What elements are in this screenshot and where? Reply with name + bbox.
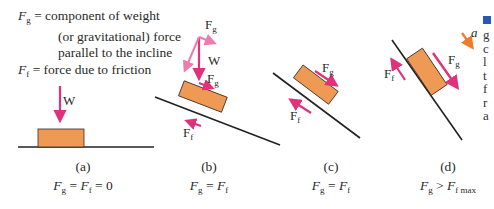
eq-op: = 0 (92, 178, 113, 193)
eq-symbol: F (190, 178, 198, 193)
eq-sub: f (225, 185, 228, 195)
eq-symbol: F (312, 178, 320, 193)
right-edge-text-fragment: g c l t f r a (480, 16, 494, 123)
label-d-ff: Ff (384, 66, 394, 83)
panel-d-equation: Fg > Ff max (408, 176, 488, 200)
eq-symbol: F (339, 178, 347, 193)
label-b-w: W (208, 53, 220, 69)
ff-sub: f (391, 73, 394, 83)
eq-symbol: F (420, 178, 428, 193)
panel-c-label: (c) (300, 157, 362, 176)
fragment-char: a (480, 109, 494, 123)
fragment-char: l (480, 55, 494, 69)
eq-sub: f max (455, 185, 476, 195)
eq-op: = (203, 178, 217, 193)
panel-a-caption: (a) Fg = Ff = 0 (40, 157, 126, 200)
block-d (407, 48, 447, 95)
block-a (38, 129, 84, 147)
eq-sub: f (347, 185, 350, 195)
fg-sub: g (329, 67, 334, 77)
normal-component-arrow-icon (185, 37, 199, 70)
panel-d-drawing (392, 33, 472, 140)
ff-sub: f (297, 115, 300, 125)
label-b-fg-top: Fg (205, 17, 217, 34)
fragment-char: t (480, 69, 494, 83)
label-b-fg: Fg (207, 71, 219, 88)
parallel-component-arrow-icon (199, 37, 214, 43)
panel-b-label: (b) (178, 157, 240, 176)
fragment-char: g (480, 28, 494, 42)
panel-b-caption: (b) Fg = Ff (178, 157, 240, 200)
label-d-fg: Fg (448, 52, 460, 69)
panel-a-equation: Fg = Ff = 0 (40, 176, 126, 200)
label-b-ff: Ff (183, 125, 193, 142)
fragment-char: r (480, 96, 494, 110)
eq-symbol: F (217, 178, 225, 193)
label-c-fg: Fg (322, 60, 334, 77)
eq-symbol: F (53, 178, 61, 193)
fragment-char: c (480, 42, 494, 56)
fragment-char: f (480, 82, 494, 96)
ff-sub: f (190, 132, 193, 142)
panel-a-label: (a) (40, 157, 126, 176)
panel-c-drawing (273, 65, 360, 138)
label-c-ff: Ff (290, 108, 300, 125)
label-a-w: W (63, 93, 75, 109)
eq-op: = (325, 178, 339, 193)
label-d-a: a (471, 25, 478, 41)
fg-sub: g (214, 78, 219, 88)
eq-op: > (433, 178, 447, 193)
blue-marker-icon (483, 16, 491, 24)
panel-b-equation: Fg = Ff (178, 176, 240, 200)
panel-c-equation: Fg = Ff (300, 176, 362, 200)
fg-sub: g (212, 24, 217, 34)
panel-a-drawing (18, 86, 154, 147)
fg-sub: g (455, 59, 460, 69)
eq-op: = (66, 178, 80, 193)
panel-c-caption: (c) Fg = Ff (300, 157, 362, 200)
eq-symbol: F (80, 178, 88, 193)
panel-d-label: (d) (408, 157, 488, 176)
panel-d-caption: (d) Fg > Ff max (408, 157, 488, 200)
